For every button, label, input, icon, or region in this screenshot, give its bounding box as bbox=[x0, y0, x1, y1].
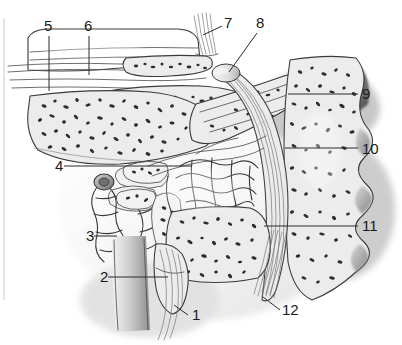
callout-label-1: 1 bbox=[192, 306, 200, 323]
callout-label-2: 2 bbox=[100, 268, 108, 285]
nodular-swelling bbox=[212, 64, 240, 82]
callout-label-12: 12 bbox=[282, 301, 299, 318]
callout-label-8: 8 bbox=[256, 14, 264, 31]
callout-label-6: 6 bbox=[84, 17, 92, 34]
callout-label-9: 9 bbox=[362, 85, 370, 102]
anatomical-figure: 1 2 3 4 5 6 7 8 9 10 11 12 bbox=[0, 0, 402, 345]
callout-label-5: 5 bbox=[44, 17, 52, 34]
callout-label-4: 4 bbox=[55, 157, 63, 174]
anatomy-illustration: 1 2 3 4 5 6 7 8 9 10 11 12 bbox=[0, 0, 402, 345]
callout-label-11: 11 bbox=[362, 217, 378, 234]
cut-vessel-stump bbox=[94, 174, 114, 190]
callout-label-7: 7 bbox=[224, 14, 232, 31]
inferior-stem-column bbox=[112, 236, 150, 332]
callout-label-10: 10 bbox=[362, 140, 379, 157]
callout-label-3: 3 bbox=[86, 227, 94, 244]
